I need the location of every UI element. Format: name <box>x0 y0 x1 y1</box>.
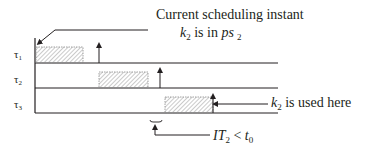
idle-time-leader <box>155 127 210 135</box>
scheduling-diagram: τ1 τ2 τ3 Current scheduling instant k2 i… <box>0 0 370 145</box>
task1-label: τ1 <box>14 48 22 62</box>
idle-time-condition-label: IT2 < t0 <box>212 128 254 145</box>
current-scheduling-instant-label: Current scheduling instant <box>156 7 304 22</box>
task2-label: τ2 <box>14 73 22 87</box>
scheduling-instant-leader <box>39 30 148 43</box>
task3-label: τ3 <box>14 98 22 112</box>
task3-execution-box <box>165 97 213 113</box>
k2-used-here-label: k2 is used here <box>271 95 351 112</box>
task1-execution-box <box>36 47 83 63</box>
k2-in-ps2-label: k2 is in ps2 <box>180 25 241 42</box>
interval-brace <box>150 120 162 122</box>
task2-execution-box <box>99 72 148 88</box>
